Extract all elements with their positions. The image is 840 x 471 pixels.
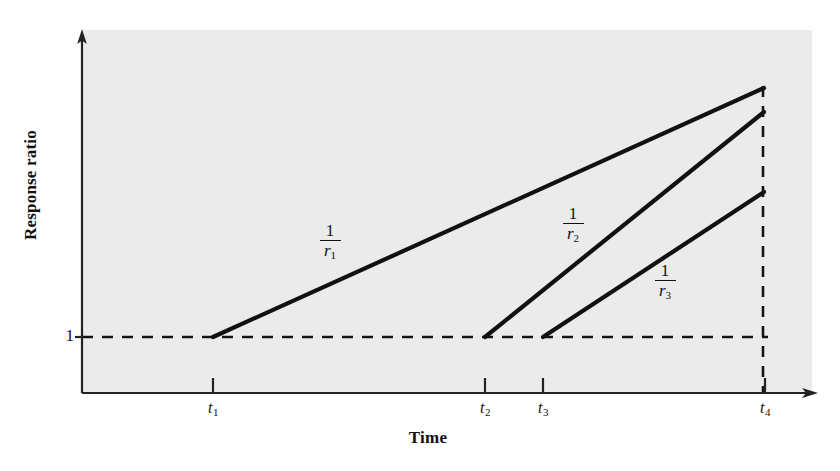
series-annotation-1-numerator: 1: [308, 222, 352, 240]
x-tick-label-t4: t4: [745, 399, 785, 417]
series-annotation-2: 1 r2: [551, 205, 595, 242]
y-axis-title: Response ratio: [18, 15, 44, 355]
x-axis-title: Time: [343, 428, 513, 448]
x-tick-label-t2: t2: [465, 399, 505, 417]
y-tick-label-1: 1: [52, 326, 74, 346]
series-annotation-3-denominator: r3: [643, 281, 687, 299]
x-tick-label-t3: t3: [523, 399, 563, 417]
x-tick-label-t1: t1: [193, 399, 233, 417]
x-tick-label-t3-letter: t: [538, 399, 542, 416]
series-annotation-2-denominator: r2: [551, 224, 595, 242]
series-annotation-1-denominator: r1: [308, 241, 352, 259]
series-annotation-1-denominator-subscript: 1: [331, 249, 337, 261]
chart-figure: Response ratio Time 1 t1 t2 t3 t4 1 r1 1…: [0, 0, 840, 471]
x-tick-label-t2-letter: t: [480, 399, 484, 416]
x-tick-label-t4-subscript: 4: [765, 406, 771, 418]
series-annotation-1-denominator-letter: r: [324, 241, 331, 260]
chart-canvas: [0, 0, 840, 471]
x-tick-label-t4-letter: t: [760, 399, 764, 416]
series-annotation-2-denominator-subscript: 2: [574, 232, 580, 244]
series-annotation-3-denominator-subscript: 3: [666, 289, 672, 301]
x-tick-label-t3-subscript: 3: [543, 406, 549, 418]
series-annotation-2-denominator-letter: r: [567, 224, 574, 243]
series-annotation-3-denominator-letter: r: [659, 281, 666, 300]
series-annotation-3: 1 r3: [643, 262, 687, 299]
plot-area-background: [82, 30, 812, 393]
series-annotation-1: 1 r1: [308, 222, 352, 259]
x-tick-label-t1-subscript: 1: [213, 406, 219, 418]
x-tick-label-t1-letter: t: [208, 399, 212, 416]
x-tick-label-t2-subscript: 2: [485, 406, 491, 418]
series-annotation-2-numerator: 1: [551, 205, 595, 223]
series-annotation-3-numerator: 1: [643, 262, 687, 280]
